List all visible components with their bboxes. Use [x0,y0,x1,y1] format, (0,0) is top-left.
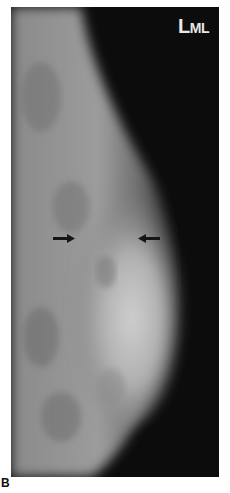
panel-letter: B [1,476,10,490]
projection-label: ML [190,20,209,36]
breast-tissue-graphic [11,7,219,477]
mammogram-image: LML [11,7,219,477]
laterality-label: L [178,15,190,37]
view-label: LML [178,15,209,38]
